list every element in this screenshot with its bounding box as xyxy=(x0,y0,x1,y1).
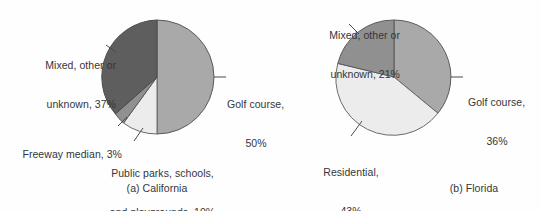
caption-florida: (b) Florida xyxy=(394,182,541,194)
label-mixed-line2: unknown, 37% xyxy=(6,98,116,111)
label-parks-line1: Public parks, schools, xyxy=(90,167,235,180)
caption-california: (a) California xyxy=(77,182,237,194)
pie-chart-california: Mixed, other or unknown, 37% Golf course… xyxy=(0,0,300,211)
label-public-parks: Public parks, schools, and playgrounds, … xyxy=(90,141,235,211)
pie-chart-florida: Mixed, other or unknown, 21% Golf course… xyxy=(280,0,541,211)
label-mixed-line1: Mixed, other or xyxy=(6,59,116,72)
leader-line-residential xyxy=(351,121,362,136)
label-golf-course: Golf course, 36% xyxy=(468,70,540,174)
label-mixed-line2: unknown, 21% xyxy=(290,68,400,81)
label-golf-line2: 36% xyxy=(468,135,540,148)
label-residential-line1: Residential, xyxy=(306,166,396,179)
slice-golf-course[interactable] xyxy=(157,20,214,134)
label-golf-line1: Golf course, xyxy=(468,96,540,109)
label-mixed-other-unknown: Mixed, other or unknown, 21% xyxy=(290,3,400,107)
label-residential: Residential, 43% xyxy=(306,140,396,211)
label-mixed-line1: Mixed, other or xyxy=(290,29,400,42)
label-residential-line2: 43% xyxy=(306,205,396,211)
figure-container: Mixed, other or unknown, 37% Golf course… xyxy=(0,0,541,211)
label-parks-line2: and playgrounds, 10% xyxy=(90,206,235,211)
